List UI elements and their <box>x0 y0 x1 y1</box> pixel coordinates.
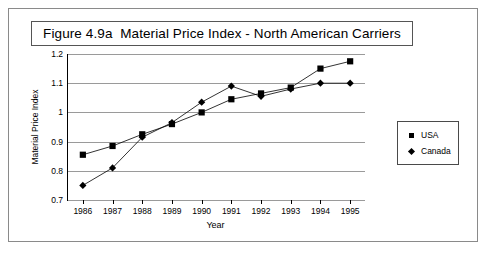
x-axis-tick <box>172 200 173 204</box>
y-axis-title: Material Price Index <box>30 89 40 164</box>
figure-container: Figure 4.9a Material Price Index - North… <box>8 8 478 242</box>
square-marker-icon <box>405 133 417 138</box>
y-axis-tick-label: 1 <box>58 107 63 117</box>
data-point-usa-1990 <box>199 109 205 115</box>
data-series-group <box>68 54 365 200</box>
data-point-usa-1986 <box>80 152 86 158</box>
x-axis-tick <box>320 200 321 204</box>
data-point-canada-1986 <box>79 182 86 189</box>
data-point-canada-1994 <box>317 80 324 87</box>
data-point-canada-1995 <box>347 80 354 87</box>
y-axis-tick-label: 0.9 <box>51 137 63 147</box>
legend-label-canada: Canada <box>421 146 451 156</box>
series-line-canada <box>83 83 350 185</box>
x-axis-tick-label: 1995 <box>341 206 360 216</box>
data-point-usa-1995 <box>347 58 353 64</box>
y-axis-tick-label: 1.2 <box>51 49 63 59</box>
chart-plot-wrapper: Material Price Index 0.70.80.911.11.2 19… <box>9 9 479 243</box>
x-axis-tick-label: 1991 <box>222 206 241 216</box>
x-axis-tick-label: 1989 <box>162 206 181 216</box>
y-axis-tick-label: 0.8 <box>51 166 63 176</box>
x-axis-tick-label: 1987 <box>103 206 122 216</box>
x-axis-tick <box>261 200 262 204</box>
x-axis-tick <box>291 200 292 204</box>
x-axis-tick-label: 1994 <box>311 206 330 216</box>
data-point-canada-1991 <box>228 83 235 90</box>
x-axis-tick <box>142 200 143 204</box>
diamond-marker-icon <box>405 149 417 154</box>
x-axis-tick <box>202 200 203 204</box>
x-axis-tick <box>350 200 351 204</box>
x-axis-tick-label: 1990 <box>192 206 211 216</box>
x-axis-tick <box>231 200 232 204</box>
x-axis-tick-label: 1992 <box>252 206 271 216</box>
series-line-usa <box>83 61 350 154</box>
data-point-usa-1994 <box>317 66 323 72</box>
data-point-canada-1990 <box>198 99 205 106</box>
legend-item-usa: USA <box>405 127 458 143</box>
x-axis-tick-label: 1993 <box>281 206 300 216</box>
x-axis-tick <box>83 200 84 204</box>
data-point-usa-1991 <box>228 96 234 102</box>
x-axis-tick <box>113 200 114 204</box>
x-axis-title: Year <box>67 220 364 230</box>
plot-area: 0.70.80.911.11.2 19861987198819891990199… <box>67 54 365 201</box>
y-axis-tick-label: 1.1 <box>51 78 63 88</box>
x-axis-tick-label: 1986 <box>73 206 92 216</box>
legend-label-usa: USA <box>421 130 438 140</box>
data-point-usa-1987 <box>109 143 115 149</box>
y-axis-tick-label: 0.7 <box>51 195 63 205</box>
legend-item-canada: Canada <box>405 143 458 159</box>
chart-legend: USA Canada <box>397 121 459 165</box>
x-axis-tick-label: 1988 <box>133 206 152 216</box>
